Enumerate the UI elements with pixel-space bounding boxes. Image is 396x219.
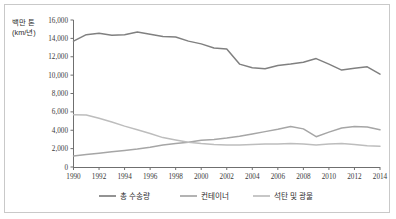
y-axis-title-line2: (km/년) (12, 28, 36, 37)
chart-legend: 총 수송량컨테이너석탄 및 광물 (99, 191, 313, 201)
line-chart: 백만 톤 (km/년) 16,00014,00012,00010,0008,00… (0, 0, 396, 219)
series-line-컨테이너 (74, 127, 381, 156)
y-axis-title: 백만 톤 (km/년) (12, 18, 36, 37)
y-tick-label: 2,000 (52, 145, 69, 153)
x-tick-label: 2000 (194, 173, 209, 181)
x-tick-label: 2014 (373, 173, 388, 181)
x-tick-label: 2010 (322, 173, 337, 181)
x-tick-label: 2008 (296, 173, 311, 181)
x-tick-label: 1990 (66, 173, 81, 181)
y-tick-label: 10,000 (48, 72, 68, 80)
series-lines (74, 32, 381, 156)
x-tick-label: 1992 (92, 173, 107, 181)
x-tick-label: 1996 (143, 173, 158, 181)
y-axis-ticks: 16,00014,00012,00010,0008,0006,0004,0002… (48, 17, 73, 172)
x-tick-label: 2006 (271, 173, 286, 181)
legend-label-석탄 및 광물: 석탄 및 광물 (274, 191, 313, 201)
x-axis-ticks: 1990199219941996199820002002200420062008… (66, 167, 387, 181)
y-tick-label: 16,000 (48, 17, 68, 25)
x-tick-label: 2004 (245, 173, 260, 181)
series-line-총 수송량 (74, 32, 381, 74)
chart-page: 백만 톤 (km/년) 16,00014,00012,00010,0008,00… (0, 0, 396, 219)
x-tick-label: 2012 (347, 173, 362, 181)
y-tick-label: 12,000 (48, 53, 68, 61)
y-tick-label: 14,000 (48, 35, 68, 43)
x-tick-label: 2002 (220, 173, 235, 181)
x-tick-label: 1998 (168, 173, 183, 181)
legend-label-총 수송량: 총 수송량 (120, 192, 150, 201)
y-tick-label: 6,000 (52, 108, 69, 116)
chart-svg: 백만 톤 (km/년) 16,00014,00012,00010,0008,00… (0, 0, 396, 219)
y-tick-label: 0 (64, 164, 68, 172)
y-axis-title-line1: 백만 톤 (12, 18, 35, 27)
legend-label-컨테이너: 컨테이너 (201, 191, 229, 201)
y-tick-label: 4,000 (52, 127, 69, 135)
x-tick-label: 1994 (117, 173, 132, 181)
y-tick-label: 8,000 (52, 90, 69, 98)
